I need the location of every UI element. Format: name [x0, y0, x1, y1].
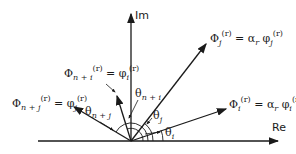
complex-plane-diagram — [0, 0, 296, 154]
arc-theta-j — [144, 123, 153, 141]
real-axis-label: Re — [272, 122, 286, 133]
vector-phi-i — [131, 109, 226, 141]
label-phi-n-plus-i: Φn + i(r) = φi(r) — [64, 68, 139, 79]
label-phi-i: Φi(r) = αr φi(r) — [229, 99, 296, 110]
angle-theta-n-plus-i: θn + i — [135, 88, 161, 99]
angle-theta-j: θj — [153, 110, 162, 121]
imag-axis-label: Im — [135, 10, 149, 21]
arc-theta-i — [161, 130, 163, 141]
label-phi-n-plus-j: Φn + j(r) = φj(r) — [12, 98, 87, 109]
angle-theta-n-plus-j: θn + j — [85, 106, 111, 117]
angle-theta-i: θi — [165, 127, 174, 138]
label-phi-j: Φj(r) = αr φj(r) — [210, 33, 283, 44]
